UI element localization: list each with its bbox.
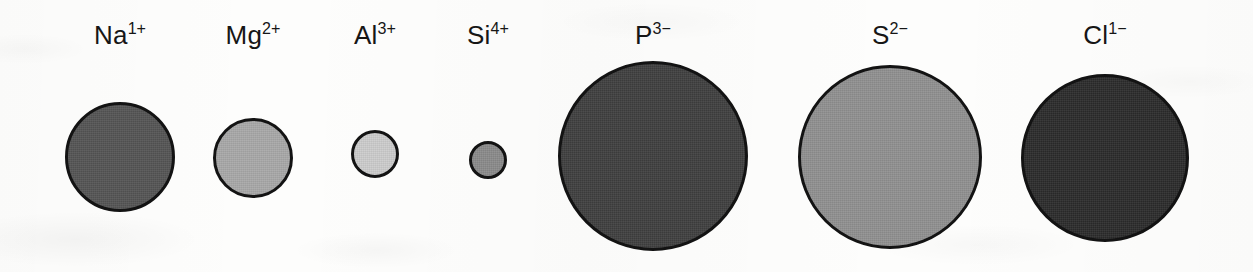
ion-charge-magnesium: 2+ bbox=[262, 19, 280, 37]
ion-label-sulfur: S2− bbox=[872, 22, 908, 48]
ion-symbol-chlorine: Cl bbox=[1083, 20, 1108, 50]
ion-charge-chlorine: 1− bbox=[1108, 19, 1126, 37]
ion-sphere-chlorine bbox=[1021, 74, 1189, 242]
ion-label-chlorine: Cl1− bbox=[1083, 22, 1126, 48]
ion-sphere-phosphorus bbox=[558, 61, 748, 251]
ion-sphere-aluminium bbox=[351, 130, 399, 178]
ion-sphere-sodium bbox=[65, 102, 175, 212]
ion-symbol-phosphorus: P bbox=[635, 20, 653, 50]
ion-symbol-sodium: Na bbox=[94, 20, 128, 50]
ion-label-sodium: Na1+ bbox=[94, 22, 146, 48]
ion-label-phosphorus: P3− bbox=[635, 22, 671, 48]
ion-charge-phosphorus: 3− bbox=[653, 19, 671, 37]
ion-symbol-silicon: Si bbox=[467, 20, 491, 50]
ion-symbol-aluminium: Al bbox=[354, 20, 378, 50]
ion-label-aluminium: Al3+ bbox=[354, 22, 396, 48]
ion-charge-sodium: 1+ bbox=[128, 19, 146, 37]
ion-charge-aluminium: 3+ bbox=[378, 19, 396, 37]
ion-charge-silicon: 4+ bbox=[491, 19, 509, 37]
ion-sphere-magnesium bbox=[213, 118, 293, 198]
ion-sphere-silicon bbox=[469, 141, 507, 179]
ion-charge-sulfur: 2− bbox=[890, 19, 908, 37]
ion-symbol-magnesium: Mg bbox=[226, 20, 263, 50]
ion-sphere-sulfur bbox=[798, 65, 982, 249]
ion-label-silicon: Si4+ bbox=[467, 22, 509, 48]
ion-symbol-sulfur: S bbox=[872, 20, 890, 50]
ionic-radii-figure: Na1+Mg2+Al3+Si4+P3−S2−Cl1− bbox=[0, 0, 1253, 272]
ion-label-magnesium: Mg2+ bbox=[226, 22, 281, 48]
